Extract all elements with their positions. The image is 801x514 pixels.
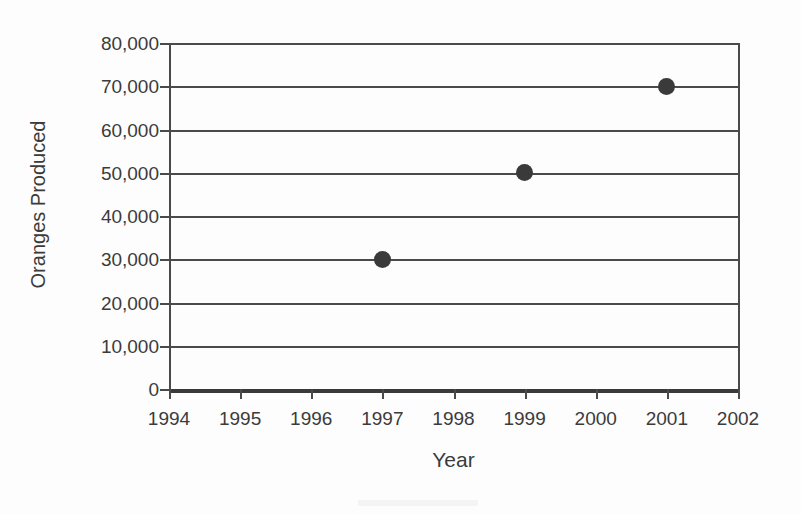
- x-axis-tick: [667, 389, 669, 399]
- grid-line: [169, 216, 738, 218]
- x-axis-tick: [738, 389, 740, 399]
- x-axis-tick: [382, 389, 384, 399]
- y-axis-tick-label: 80,000: [49, 34, 159, 53]
- x-axis-tick-labels: 199419951996199719981999200020012002: [169, 409, 738, 435]
- grid-line: [169, 303, 738, 305]
- y-axis-tick-label: 10,000: [49, 336, 159, 355]
- x-axis-title: Year: [169, 448, 738, 472]
- y-axis-tick-label: 70,000: [49, 77, 159, 96]
- grid-line: [169, 173, 738, 175]
- y-axis-tick: [160, 389, 169, 391]
- y-axis-title: Oranges Produced: [27, 105, 50, 305]
- x-axis-tick: [525, 389, 527, 399]
- grid-line: [169, 43, 738, 45]
- x-axis-tick: [311, 389, 313, 399]
- y-axis-tick: [160, 130, 169, 132]
- x-axis-tick: [454, 389, 456, 399]
- data-point: [658, 78, 675, 95]
- y-axis-tick-label: 30,000: [49, 250, 159, 269]
- grid-line: [169, 130, 738, 132]
- y-axis-tick-label: 40,000: [49, 207, 159, 226]
- scatter-chart-figure: Oranges Produced 010,00020,00030,00040,0…: [0, 0, 801, 514]
- grid-line: [169, 259, 738, 261]
- x-axis-tick: [169, 389, 171, 399]
- y-axis-tick: [160, 86, 169, 88]
- y-axis-tick: [160, 173, 169, 175]
- grid-line: [169, 346, 738, 348]
- y-axis-tick: [160, 216, 169, 218]
- y-axis-tick-label: 0: [49, 380, 159, 399]
- y-axis-tick-label: 20,000: [49, 293, 159, 312]
- y-axis-tick: [160, 43, 169, 45]
- x-axis-tick-label: 2002: [693, 409, 783, 428]
- x-axis-tick: [596, 389, 598, 399]
- y-axis-tick-label: 60,000: [49, 120, 159, 139]
- scan-artifact: [358, 500, 478, 506]
- y-axis-tick: [160, 259, 169, 261]
- y-axis-tick-label: 50,000: [49, 163, 159, 182]
- plot-right-border: [738, 43, 740, 391]
- data-point: [516, 164, 533, 181]
- y-axis-tick: [160, 303, 169, 305]
- y-axis-tick-labels: 010,00020,00030,00040,00050,00060,00070,…: [48, 43, 159, 389]
- grid-line: [169, 86, 738, 88]
- plot-area: [169, 43, 738, 389]
- data-point: [374, 251, 391, 268]
- x-axis-tick: [240, 389, 242, 399]
- y-axis-tick: [160, 346, 169, 348]
